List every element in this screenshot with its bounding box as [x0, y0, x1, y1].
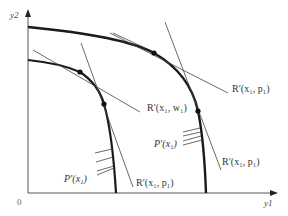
line-r-x-p-inner-steep [81, 43, 133, 187]
label-r-x-p-outer-top: R′(x₁, p₁) [232, 84, 270, 94]
label-r-x-p-outer-steep: R′(x₁, p₁) [222, 157, 260, 167]
tangent-lines [33, 22, 228, 187]
label-r-x-w: R′(x₁, w₁) [147, 103, 187, 113]
y-axis-label: y2 [10, 11, 19, 20]
hatch-outer [183, 128, 202, 145]
dot-inner-lower [101, 101, 106, 106]
label-r-x-p-inner-steep: R′(x₁, p₁) [136, 178, 174, 188]
dot-outer-upper [151, 50, 156, 55]
y-axis-arrow-icon [25, 9, 31, 17]
hatch-inner [95, 149, 114, 171]
x-axis-arrow-icon [270, 190, 278, 196]
label-p-x-inner: P′(x₁) [64, 174, 87, 184]
label-p-x-outer: P′(x₁) [154, 139, 177, 149]
dot-outer-lower [195, 108, 200, 113]
p-inner-leader [97, 168, 114, 175]
line-r-x-p-outer-top [110, 33, 228, 93]
x-axis-label: y1 [264, 199, 273, 208]
dot-inner-upper [77, 69, 82, 74]
origin-label: 0 [17, 198, 22, 207]
